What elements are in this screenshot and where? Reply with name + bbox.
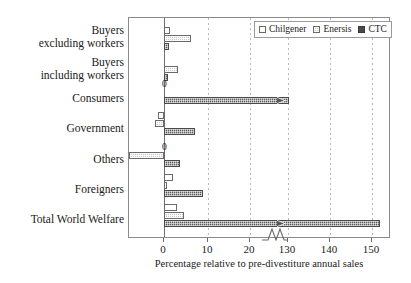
xtick-label-10: 10: [192, 243, 222, 255]
bar-consumers-enersis: [164, 89, 165, 96]
bar-others-chilgener: [164, 152, 165, 159]
gridline-130: [288, 18, 289, 237]
bar-foreigners-chilgener: [164, 174, 173, 181]
y-label-total-world-welfare: Total World Welfare: [31, 213, 124, 226]
gridline-10: [208, 18, 209, 237]
legend-item-enersis: Enersis: [313, 24, 351, 35]
axis-break-zigzag-icon: [262, 228, 288, 241]
xtick-label-150: 150: [356, 243, 386, 255]
xtick-label-0: 0: [148, 243, 178, 255]
legend-label-ctc: CTC: [368, 24, 386, 35]
bar-buyers-excluding-workers-chilgener: [164, 27, 170, 34]
gridline-150: [372, 18, 373, 237]
bar-total-world-welfare-enersis: [164, 212, 184, 219]
y-label-others: Others: [93, 153, 124, 166]
legend-label-chilgener: Chilgener: [269, 24, 306, 35]
bar-government-ctc: [164, 128, 195, 135]
plot-area: 0 0 Chilgener: [128, 17, 390, 238]
xtick-mark-10: [207, 238, 208, 242]
y-label-consumers: Consumers: [72, 92, 124, 105]
bar-consumers-ctc: [164, 97, 289, 104]
bar-buyers-including-workers-enersis: [164, 66, 178, 73]
bar-buyers-excluding-workers-ctc: [164, 43, 169, 50]
bar-government-enersis: [155, 120, 164, 127]
y-label-foreigners: Foreigners: [75, 183, 124, 196]
bar-government-chilgener: [158, 112, 164, 119]
xtick-mark-150: [371, 238, 372, 242]
gridline-20: [250, 18, 251, 237]
bar-buyers-including-workers-chilgener: [164, 58, 165, 65]
legend-item-ctc: CTC: [358, 24, 386, 35]
bar-others-ctc: [164, 160, 180, 167]
y-label-buyers-including-workers: Buyers including workers: [41, 56, 124, 81]
bar-total-world-welfare-ctc: [164, 220, 380, 227]
zero-annotation-others: 0: [162, 142, 167, 152]
xtick-mark-20: [249, 238, 250, 242]
figure-container: Buyers excluding workers Buyers includin…: [0, 0, 411, 283]
xtick-label-130: 130: [272, 243, 302, 255]
y-label-government: Government: [67, 122, 124, 135]
bar-foreigners-ctc: [164, 190, 203, 197]
xtick-mark-140: [329, 238, 330, 242]
zero-annotation-consumers: 0: [162, 79, 167, 89]
legend-swatch-enersis-icon: [313, 26, 320, 33]
bar-buyers-excluding-workers-enersis: [164, 35, 191, 42]
legend-swatch-chilgener-icon: [259, 26, 266, 33]
bar-others-enersis: [129, 152, 164, 159]
legend: Chilgener Enersis CTC: [254, 21, 392, 38]
xtick-label-20: 20: [234, 243, 264, 255]
bar-total-world-welfare-chilgener: [164, 204, 177, 211]
gridline-140: [330, 18, 331, 237]
legend-item-chilgener: Chilgener: [259, 24, 306, 35]
xtick-mark-0: [163, 238, 164, 242]
bar-foreigners-enersis: [164, 182, 167, 189]
xtick-label-140: 140: [314, 243, 344, 255]
legend-label-enersis: Enersis: [323, 24, 351, 35]
y-label-buyers-excluding-workers: Buyers excluding workers: [39, 24, 124, 49]
x-axis-title: Percentage relative to pre-divestiture a…: [128, 258, 390, 270]
legend-swatch-ctc-icon: [358, 26, 365, 33]
